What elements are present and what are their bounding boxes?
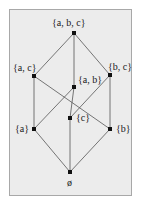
node-ab <box>72 85 76 89</box>
node-b <box>108 127 112 131</box>
edge-ab-c <box>70 87 74 118</box>
node-label-b: {b} <box>116 124 131 134</box>
node-a <box>32 127 36 131</box>
node-label-empty: ø <box>67 178 72 188</box>
edge-abc-bc <box>74 33 110 75</box>
edge-b-empty <box>70 129 110 172</box>
node-label-ac: {a, c} <box>13 63 36 73</box>
edge-abc-ac <box>34 33 74 76</box>
edge-a-empty <box>34 129 70 172</box>
node-label-ab: {a, b} <box>78 75 102 85</box>
hasse-diagram <box>0 0 141 203</box>
node-label-bc: {b, c} <box>108 62 132 72</box>
node-abc <box>72 31 76 35</box>
node-label-a: {a} <box>15 124 29 134</box>
node-label-abc: {a, b, c} <box>52 18 85 28</box>
edge-ab-a <box>34 87 74 129</box>
node-ac <box>32 74 36 78</box>
node-label-c: {c} <box>76 113 90 123</box>
node-c <box>68 116 72 120</box>
node-empty <box>68 170 72 174</box>
node-bc <box>108 73 112 77</box>
